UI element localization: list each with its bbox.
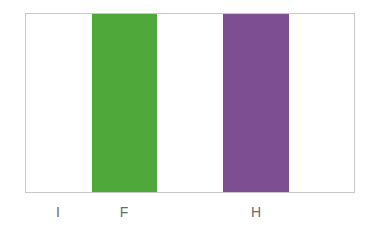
label-i: I [56,204,60,220]
stripe-white-2 [157,14,223,192]
stripe-green [92,14,157,192]
label-f: F [120,204,129,220]
label-h: H [251,204,261,220]
stripe-panel [25,13,355,193]
stripe-white-1 [26,14,92,192]
stripe-white-3 [289,14,354,192]
stripe-purple [223,14,289,192]
